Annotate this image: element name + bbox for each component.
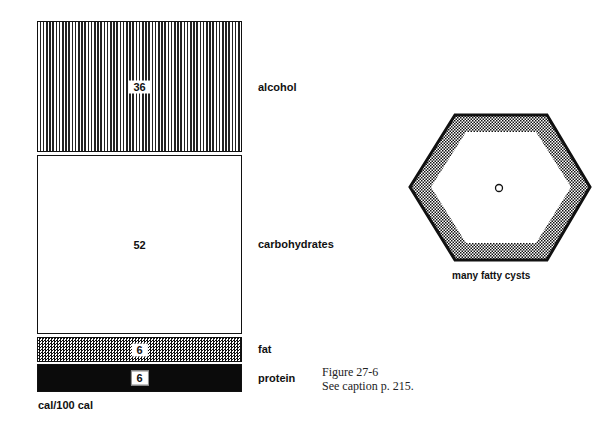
value-fat: 6 — [131, 343, 147, 356]
value-alcohol: 36 — [128, 80, 150, 93]
bar-alcohol: 36 — [37, 21, 242, 152]
label-protein: protein — [258, 372, 295, 384]
value-protein: 6 — [130, 371, 148, 386]
bar-fat: 6 — [37, 337, 242, 362]
label-carbohydrates: carbohydrates — [258, 238, 334, 250]
cell-label: many fatty cysts — [452, 270, 530, 281]
nucleus-icon — [496, 185, 503, 192]
value-carbohydrates: 52 — [133, 239, 145, 251]
bar-protein: 6 — [37, 364, 242, 392]
label-alcohol: alcohol — [258, 81, 297, 93]
figure-caption: Figure 27-6 See caption p. 215. — [322, 365, 414, 393]
caption-reference: See caption p. 215. — [322, 379, 414, 393]
figure-number: Figure 27-6 — [322, 365, 414, 379]
bar-carbohydrates: 52 — [37, 155, 242, 334]
label-fat: fat — [258, 343, 271, 355]
hexagon-cell-diagram — [400, 105, 600, 285]
unit-label: cal/100 cal — [38, 399, 93, 411]
